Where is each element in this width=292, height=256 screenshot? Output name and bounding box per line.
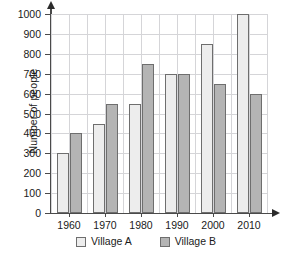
bar-chart: Number of people 01002003004005006007008… bbox=[0, 0, 292, 256]
bar-village-b-2010 bbox=[250, 94, 262, 213]
y-tick-label: 900 bbox=[1, 29, 41, 39]
x-tick-mark bbox=[249, 213, 250, 217]
y-tick-label: 200 bbox=[1, 168, 41, 178]
legend-swatch-icon-village-a bbox=[76, 237, 86, 247]
y-tick-label: 100 bbox=[1, 188, 41, 198]
x-tick-mark bbox=[69, 213, 70, 217]
gridline-vertical bbox=[267, 14, 268, 213]
legend-label-village-b: Village B bbox=[175, 236, 216, 247]
y-tick-label: 800 bbox=[1, 49, 41, 59]
bar-village-b-1960 bbox=[70, 133, 82, 213]
bar-village-b-1980 bbox=[142, 64, 154, 213]
gridline-vertical bbox=[51, 14, 52, 213]
legend-label-village-a: Village A bbox=[91, 236, 132, 247]
gridline-vertical bbox=[231, 14, 232, 213]
bar-village-a-1960 bbox=[57, 153, 69, 213]
y-tick-label: 400 bbox=[1, 128, 41, 138]
y-tick-label: 1000 bbox=[1, 9, 41, 19]
x-tick-mark bbox=[177, 213, 178, 217]
bar-village-a-1980 bbox=[129, 104, 141, 214]
x-tick-mark bbox=[141, 213, 142, 217]
bar-village-a-1970 bbox=[93, 124, 105, 214]
x-axis-arrow-icon bbox=[272, 209, 280, 217]
legend: Village A Village B bbox=[0, 236, 292, 247]
x-tick-label-2010: 2010 bbox=[226, 219, 272, 231]
gridline-vertical bbox=[123, 14, 124, 213]
legend-swatch-icon-village-b bbox=[160, 237, 170, 247]
bar-village-a-1990 bbox=[165, 74, 177, 213]
bar-village-b-1990 bbox=[178, 74, 190, 213]
y-tick-label: 700 bbox=[1, 69, 41, 79]
y-tick-label: 600 bbox=[1, 89, 41, 99]
y-axis-arrow-icon bbox=[47, 1, 55, 9]
y-tick-label: 300 bbox=[1, 148, 41, 158]
y-tick-label: 0 bbox=[1, 208, 41, 218]
legend-item-village-a[interactable]: Village A bbox=[76, 236, 132, 247]
gridline-vertical bbox=[159, 14, 160, 213]
y-tick-mark bbox=[45, 213, 51, 214]
x-tick-mark bbox=[105, 213, 106, 217]
bar-village-a-2000 bbox=[201, 44, 213, 213]
gridline-vertical bbox=[87, 14, 88, 213]
legend-item-village-b[interactable]: Village B bbox=[160, 236, 216, 247]
gridline-vertical bbox=[195, 14, 196, 213]
bar-village-a-2010 bbox=[237, 14, 249, 213]
y-tick-label: 500 bbox=[1, 109, 41, 119]
bar-village-b-2000 bbox=[214, 84, 226, 213]
bar-village-b-1970 bbox=[106, 104, 118, 214]
x-tick-mark bbox=[213, 213, 214, 217]
plot-area bbox=[51, 14, 267, 213]
